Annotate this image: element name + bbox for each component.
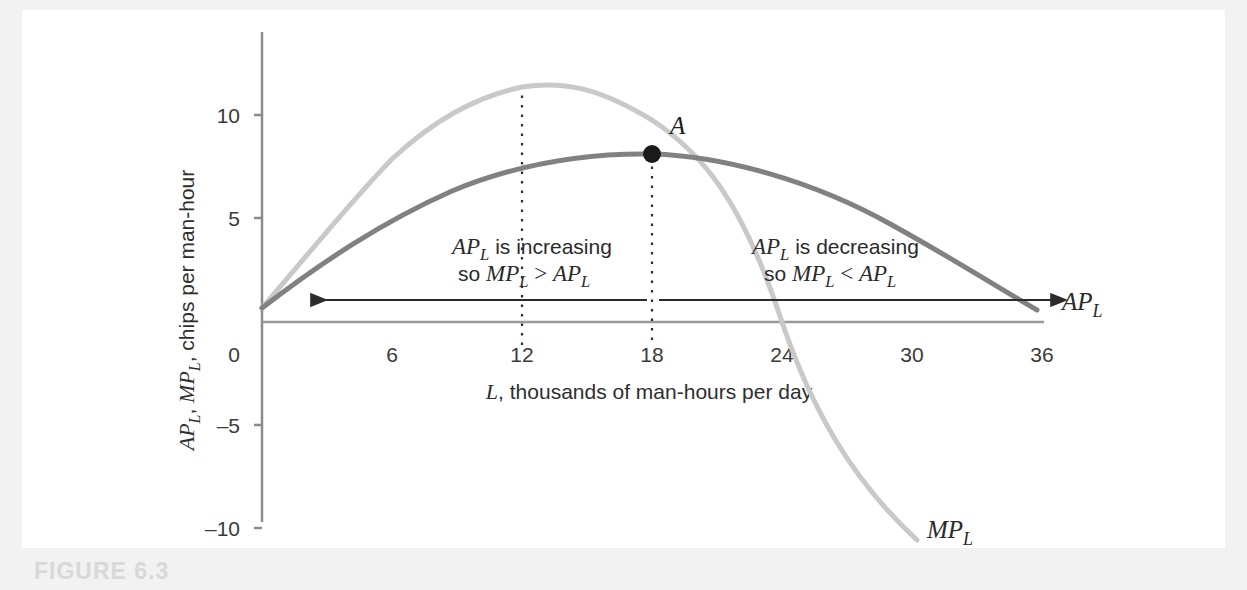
dotted-lines-group <box>522 86 652 347</box>
y-tick-label-0: 0 <box>228 343 240 366</box>
figure-caption-strip: FIGURE 6.3 <box>22 556 1225 590</box>
increasing-region-annotation: APL is increasing so MPL > APL <box>450 234 612 291</box>
increasing-operator: > <box>528 261 552 286</box>
y-tick-label-5: 5 <box>228 207 240 230</box>
axes-group <box>262 32 1044 522</box>
mpl-curve-label: MPL <box>926 516 973 548</box>
x-tick-label-18: 18 <box>640 343 663 366</box>
increasing-mp: MP <box>485 261 519 286</box>
decreasing-line-1: APL is decreasing <box>750 234 919 264</box>
increasing-ap2-sub: L <box>580 272 590 291</box>
point-a-label: A <box>668 112 686 139</box>
mpl-curve <box>262 85 917 540</box>
y-axis-title-mp-sub: L <box>186 362 203 372</box>
figure-caption: FIGURE 6.3 <box>34 558 169 585</box>
decreasing-ap2-sub: L <box>886 272 896 291</box>
increasing-ap: AP <box>450 234 480 259</box>
y-tick-label-10: 10 <box>217 104 240 127</box>
y-axis-title: APL, MPL, chips per man-hour <box>174 170 203 453</box>
apl-curve-label: APL <box>1060 288 1103 321</box>
x-tick-label-36: 36 <box>1030 343 1053 366</box>
decreasing-ap: AP <box>750 234 780 259</box>
y-axis-title-ap-sub: L <box>186 414 203 424</box>
apl-curve-label-main: AP <box>1060 288 1093 315</box>
decreasing-mp: MP <box>791 261 825 286</box>
x-axis-title-tail: , thousands of man-hours per day <box>498 380 813 403</box>
x-tick-label-30: 30 <box>900 343 923 366</box>
y-axis-title-tail: , chips per man-hour <box>175 170 198 363</box>
x-tick-label-12: 12 <box>510 343 533 366</box>
decreasing-so: so <box>764 262 792 285</box>
y-axis-title-ap: AP <box>174 423 199 452</box>
y-tick-label-minus10: –10 <box>205 517 240 540</box>
decreasing-mp-sub: L <box>824 272 834 291</box>
increasing-text: is increasing <box>489 235 612 258</box>
decreasing-region-annotation: APL is decreasing so MPL < APL <box>750 234 919 291</box>
y-axis-title-sep: , <box>175 403 198 415</box>
increasing-ap2: AP <box>551 261 581 286</box>
chart-canvas: 10 5 0 –5 –10 6 12 18 24 30 36 L, thousa… <box>22 10 1225 548</box>
figure-container: 10 5 0 –5 –10 6 12 18 24 30 36 L, thousa… <box>0 0 1247 590</box>
decreasing-text: is decreasing <box>789 235 919 258</box>
x-tick-label-6: 6 <box>386 343 398 366</box>
decreasing-ap2: AP <box>857 261 887 286</box>
y-tick-label-minus5: –5 <box>217 414 240 437</box>
decreasing-line-2: so MPL < APL <box>764 261 896 291</box>
plot-panel: 10 5 0 –5 –10 6 12 18 24 30 36 L, thousa… <box>22 10 1225 548</box>
apl-curve <box>262 154 1037 310</box>
increasing-line-2: so MPL > APL <box>458 261 590 291</box>
point-a-marker <box>643 145 661 163</box>
x-axis-title: L, thousands of man-hours per day <box>485 379 813 404</box>
mpl-curve-label-sub: L <box>962 529 973 548</box>
increasing-mp-sub: L <box>518 272 528 291</box>
x-axis-title-symbol: L <box>485 379 498 404</box>
y-axis-title-mp: MP <box>174 371 199 404</box>
decreasing-operator: < <box>834 261 858 286</box>
apl-curve-label-sub: L <box>1092 301 1103 321</box>
increasing-line-1: APL is increasing <box>450 234 612 264</box>
mpl-curve-label-main: MP <box>926 516 963 543</box>
increasing-so: so <box>458 262 486 285</box>
